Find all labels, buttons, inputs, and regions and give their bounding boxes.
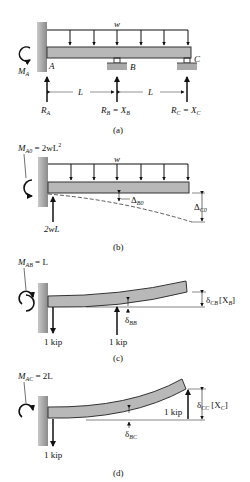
caption-b: (b) (113, 242, 124, 252)
caption-c: (c) (113, 353, 123, 363)
fixed-wall-c (38, 283, 48, 333)
moment-label-d: MAC = 2L (17, 371, 53, 382)
panel-a: w MA A B C L L RA RB = (17, 19, 202, 135)
deflected-shape-b (48, 194, 192, 222)
delta-bc-label: δBC (125, 429, 138, 440)
reaction-label-b0: 2wL (44, 224, 60, 234)
moment-label-a: MA (17, 66, 30, 77)
force-label-b-c: 1 kip (109, 337, 128, 347)
moment-label-b: MA0 = 2wL2 (17, 142, 61, 154)
moment-leader-d (24, 382, 26, 403)
delta-cb-label: δCB[XB] (206, 295, 235, 306)
delta-c0-label: ΔC0 (194, 202, 207, 213)
force-label-c-d: 1 kip (164, 407, 183, 417)
moment-arrow-icon (24, 180, 32, 196)
panel-b: MA0 = 2wL2 w 2wL ΔB0 ΔC0 (b) (17, 142, 207, 252)
moment-leader-c (24, 268, 26, 290)
span-label-1: L (77, 87, 83, 97)
caption-d: (d) (113, 468, 124, 478)
moment-arrow-icon (26, 295, 34, 311)
distributed-load-b (48, 164, 188, 180)
load-label-w: w (114, 19, 120, 29)
point-c-label: C (194, 54, 201, 64)
deflected-beam-c (48, 281, 187, 307)
load-label-w-b: w (114, 154, 120, 164)
distributed-load-a (47, 30, 188, 45)
delta-bb-label: δBB (125, 315, 137, 326)
panel-d: MAC = 2L 1 kip 1 kip δBC δCC[XC] (d) (17, 371, 228, 478)
fixed-wall-d (38, 396, 48, 446)
reaction-label-a: RA (40, 105, 51, 116)
moment-arrow-icon (19, 47, 30, 61)
delta-cc-label: δCC[XC] (197, 400, 228, 411)
force-label-a-c: 1 kip (44, 337, 63, 347)
fixed-wall-a (37, 22, 47, 72)
moment-label-c: MAB = L (17, 257, 48, 268)
beam-b (48, 182, 189, 193)
roller-support-b (107, 58, 127, 70)
point-a-label: A (48, 61, 55, 71)
caption-a: (a) (113, 125, 123, 135)
fixed-wall-b (38, 157, 48, 207)
span-label-2: L (147, 87, 153, 97)
delta-b0-label: ΔB0 (131, 195, 143, 206)
moment-leader-b (24, 154, 26, 178)
point-b-label: B (130, 62, 136, 72)
reaction-label-c: RC = XC (170, 105, 202, 116)
reaction-label-b: RB = XB (100, 105, 130, 116)
beam-a (47, 47, 191, 58)
panel-c: MAB = L 1 kip 1 kip δBB δCB[XB] (c) (17, 257, 235, 363)
force-label-a-d: 1 kip (44, 450, 63, 460)
moment-arrow-ccw-icon (19, 404, 33, 417)
